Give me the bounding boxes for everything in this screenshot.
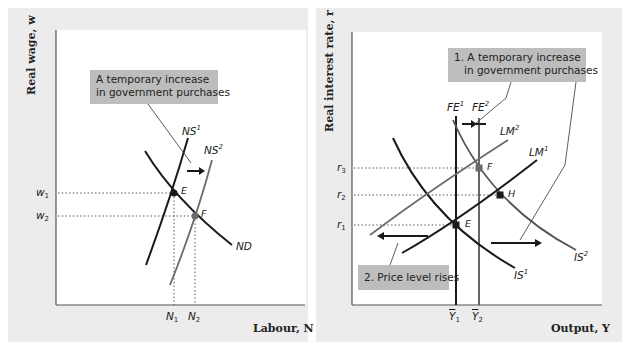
arrow-right-icon: [535, 239, 542, 247]
arrow-right-icon: [471, 120, 477, 128]
lm2-label: LM2: [500, 124, 519, 137]
fe1-label: FE1: [447, 100, 464, 113]
y-tick-r2: r2: [337, 188, 346, 202]
nd-label: ND: [236, 240, 252, 252]
point-e-label-left: E: [181, 185, 187, 196]
y-tick-w2: w2: [36, 209, 49, 223]
ns1-curve: [146, 138, 188, 265]
point-f-label-left: F: [201, 208, 206, 219]
callout-gov-purchases-right: 1. A temporary increase in government pu…: [448, 48, 586, 82]
point-f-right: [476, 165, 483, 172]
point-e-right: [453, 222, 460, 229]
lm2-curve: [370, 140, 508, 235]
y-tick-r1: r1: [337, 218, 346, 232]
point-h-right: [497, 192, 504, 199]
lm1-curve: [402, 160, 537, 253]
callout-price-level-rises: 2. Price level rises: [358, 265, 449, 290]
point-f-label-right: F: [487, 161, 492, 172]
x-tick-y2: Y2: [472, 310, 483, 324]
x-tick-y1: Y1: [449, 310, 460, 324]
point-e-label-right: E: [465, 218, 471, 229]
is2-label: IS2: [574, 250, 588, 263]
point-f-left: [192, 213, 199, 220]
ns1-label: NS1: [182, 124, 201, 137]
y-tick-r3: r3: [337, 161, 346, 175]
callout-gov-purchases-left: A temporary increase in government purch…: [90, 70, 218, 104]
x-tick-n2: N2: [188, 310, 200, 324]
x-tick-n1: N1: [166, 310, 178, 324]
lm1-label: LM1: [529, 145, 548, 158]
x-axis-title-left: Labour, N: [253, 322, 314, 335]
x-axis-title-right: Output, Y: [551, 322, 610, 335]
y-axis-title-left: Real wage, w: [25, 15, 38, 95]
is1-label: IS1: [514, 268, 528, 281]
ns2-label: NS2: [204, 143, 223, 156]
y-axis-title-right: Real interest rate, r: [323, 10, 336, 132]
arrow-left-icon: [377, 232, 384, 240]
point-h-label-right: H: [508, 188, 515, 199]
point-e-left: [171, 190, 178, 197]
fe2-label: FE2: [472, 100, 489, 113]
is2-curve: [453, 120, 576, 250]
y-tick-w1: w1: [36, 186, 49, 200]
arrow-right-icon: [199, 167, 205, 175]
